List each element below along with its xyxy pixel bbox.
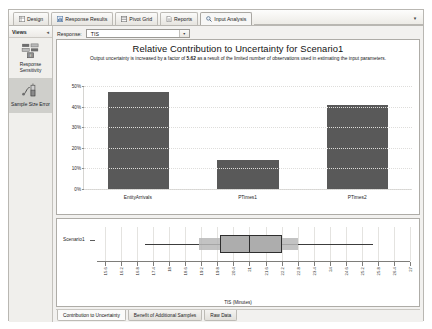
views-item-label: Sample Size Error bbox=[11, 102, 50, 108]
x-tick-label: 23.4 bbox=[311, 267, 316, 275]
x-tick-label: 20.4 bbox=[231, 267, 236, 275]
y-tick-mark bbox=[82, 107, 84, 108]
x-tick-mark bbox=[217, 262, 218, 266]
x-tick-mark bbox=[346, 262, 347, 266]
bar[interactable] bbox=[217, 160, 278, 189]
views-panel: Views ◂ f Response Sensitivity bbox=[9, 26, 53, 322]
x-tick-mark bbox=[410, 262, 411, 266]
x-tick-label: 16.8 bbox=[135, 267, 140, 275]
x-tick-label: 15.6 bbox=[103, 267, 108, 275]
x-tick-label: 21.6 bbox=[263, 267, 268, 275]
x-tick-mark bbox=[185, 262, 186, 266]
x-tick-label: 22.8 bbox=[295, 267, 300, 275]
response-value: TIS bbox=[87, 31, 179, 37]
box-plot-panel: Scenario1 15.616.216.817.41818.619.219.8… bbox=[56, 218, 420, 307]
ribbon-tab-label: Design bbox=[27, 16, 43, 22]
box-plot-area bbox=[97, 227, 410, 261]
contribution-bar-chart-panel: Relative Contribution to Uncertainty for… bbox=[56, 39, 420, 215]
x-tick-mark bbox=[394, 262, 395, 266]
y-tick-label: 0% bbox=[74, 187, 81, 192]
category-label: PTimes1 bbox=[193, 193, 303, 205]
ribbon-tab-pivot-grid[interactable]: Pivot Grid bbox=[115, 12, 158, 25]
median-line bbox=[249, 235, 250, 253]
x-tick-mark bbox=[137, 262, 138, 266]
x-tick-label: 24 bbox=[327, 267, 332, 272]
application-window: Design Response Results Pivot Grid Repor… bbox=[8, 9, 424, 321]
gridline bbox=[84, 107, 412, 108]
bottom-tab-0[interactable]: Contribution to Uncertainty bbox=[57, 310, 126, 321]
category-label: EntityArrivals bbox=[83, 193, 193, 205]
ribbon-tab-reports[interactable]: Reports bbox=[160, 12, 198, 25]
ribbon-tab-input-analysis[interactable]: Input Analysis bbox=[200, 12, 252, 25]
ribbon-tab-label: Pivot Grid bbox=[129, 16, 152, 22]
collapse-panel-icon[interactable]: ◂ bbox=[46, 29, 49, 35]
box-plot-axis: 15.616.216.817.41818.619.219.820.42121.6… bbox=[97, 261, 410, 262]
x-tick-label: 19.8 bbox=[215, 267, 220, 275]
bar-chart-category-labels: EntityArrivalsPTimes1PTimes2 bbox=[83, 193, 412, 205]
ribbon-tab-label: Reports bbox=[174, 16, 192, 22]
chart-title: Relative Contribution to Uncertainty for… bbox=[57, 40, 419, 54]
ribbon-tab-filler bbox=[254, 11, 423, 25]
x-tick-mark bbox=[330, 262, 331, 266]
x-tick-label: 18 bbox=[167, 267, 172, 272]
gridline bbox=[137, 227, 138, 261]
bottom-tab-2[interactable]: Raw Data bbox=[204, 310, 237, 321]
ribbon-tab-label: Response Results bbox=[65, 16, 107, 22]
subtitle-factor: 5.62 bbox=[187, 56, 196, 61]
chart-icon bbox=[57, 16, 63, 22]
y-tick-mark bbox=[82, 86, 84, 87]
category-label: PTimes2 bbox=[302, 193, 412, 205]
bar[interactable] bbox=[327, 105, 388, 189]
gridline bbox=[84, 189, 412, 190]
x-tick-mark bbox=[201, 262, 202, 266]
sample-size-icon bbox=[11, 82, 50, 100]
views-title: Views bbox=[12, 29, 27, 35]
x-tick-mark bbox=[233, 262, 234, 266]
x-tick-label: 16.2 bbox=[119, 267, 124, 275]
y-tick-label: 10% bbox=[72, 166, 81, 171]
x-tick-mark bbox=[282, 262, 283, 266]
views-item-response-sensitivity[interactable]: f Response Sensitivity bbox=[9, 38, 52, 78]
x-tick-mark bbox=[362, 262, 363, 266]
views-item-label: Response Sensitivity bbox=[11, 62, 50, 73]
magnifier-icon bbox=[206, 16, 212, 22]
y-tick-label: 30% bbox=[72, 125, 81, 130]
x-tick-label: 25.8 bbox=[375, 267, 380, 275]
x-tick-mark bbox=[266, 262, 267, 266]
box-plot-row-label: Scenario1 bbox=[63, 237, 85, 242]
x-tick-label: 27 bbox=[408, 267, 413, 272]
x-tick-label: 17.4 bbox=[151, 267, 156, 275]
x-tick-mark bbox=[105, 262, 106, 266]
ribbon-overflow-icon[interactable]: ▾ bbox=[411, 14, 419, 22]
bar-series bbox=[84, 86, 412, 189]
x-tick-mark bbox=[249, 262, 250, 266]
views-item-sample-size-error[interactable]: Sample Size Error bbox=[9, 78, 52, 113]
y-tick-label: 40% bbox=[72, 104, 81, 109]
x-tick-label: 18.6 bbox=[183, 267, 188, 275]
ribbon-tab-label: Input Analysis bbox=[214, 16, 246, 22]
response-toolbar: Response: TIS ▾ bbox=[56, 28, 420, 39]
gridline bbox=[84, 86, 412, 87]
sensitivity-icon: f bbox=[11, 42, 50, 60]
bottom-tab-1[interactable]: Benefit of Additional Samples bbox=[128, 310, 202, 321]
x-tick-label: 22.2 bbox=[279, 267, 284, 275]
ribbon-tab-design[interactable]: Design bbox=[13, 12, 49, 25]
bottom-tab-strip: Contribution to UncertaintyBenefit of Ad… bbox=[56, 309, 420, 322]
chevron-down-icon[interactable]: ▾ bbox=[179, 30, 189, 37]
ribbon-tab-response-results[interactable]: Response Results bbox=[51, 12, 113, 25]
x-tick-mark bbox=[121, 262, 122, 266]
views-header: Views ◂ bbox=[9, 26, 52, 38]
y-tick-label: 50% bbox=[72, 84, 81, 89]
gridline bbox=[105, 227, 106, 261]
y-tick-mark bbox=[82, 189, 84, 190]
response-combobox[interactable]: TIS ▾ bbox=[86, 29, 190, 38]
x-tick-mark bbox=[314, 262, 315, 266]
subtitle-post: as a result of the limited number of obs… bbox=[196, 56, 386, 61]
y-tick-mark bbox=[82, 127, 84, 128]
box[interactable] bbox=[220, 235, 282, 253]
content-area: Response: TIS ▾ Relative Contribution to… bbox=[53, 26, 423, 322]
y-tick-label: 20% bbox=[72, 145, 81, 150]
charts-container: Relative Contribution to Uncertainty for… bbox=[56, 39, 420, 309]
y-tick-mark bbox=[82, 168, 84, 169]
gridline bbox=[121, 227, 122, 261]
